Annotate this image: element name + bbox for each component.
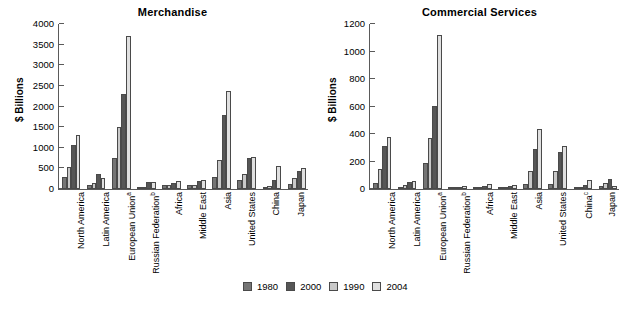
bar [301, 168, 306, 189]
y-tick-label: 2000 [33, 102, 59, 112]
chart-title-commercial-services: Commercial Services [321, 6, 634, 18]
chart-panel-merchandise: Merchandise $ Billions 05001000150020002… [0, 0, 317, 280]
y-tick-label: 200 [349, 157, 370, 167]
bar-groups-merchandise [59, 24, 308, 189]
bar [387, 137, 392, 189]
y-tick-label: 1500 [33, 122, 59, 132]
x-axis-label: Asia [535, 192, 544, 210]
y-tick-label: 0 [49, 184, 59, 194]
y-tick-label: 3000 [33, 61, 59, 71]
x-axis-label: Africa [175, 192, 184, 215]
y-tick-label: 1000 [33, 143, 59, 153]
legend-label-1990: 1990 [343, 281, 364, 292]
y-tick-label: 3500 [33, 40, 59, 50]
legend-swatch-1990 [329, 282, 338, 291]
x-axis-label: China [272, 192, 281, 216]
bar [101, 178, 106, 189]
bar-group [599, 24, 617, 189]
legend-label-1980: 1980 [257, 281, 278, 292]
bar-group [523, 24, 541, 189]
plot-area-merchandise: 05001000150020002500300035004000 North A… [58, 24, 308, 190]
bar [176, 181, 181, 189]
y-tick-label: 1000 [344, 47, 370, 57]
bar-group [498, 24, 516, 189]
legend-item-1990: 1990 [329, 281, 364, 292]
x-axis-label: Russian Federationb [461, 192, 472, 274]
x-axis-label: Japan [608, 192, 617, 217]
bar-group [448, 24, 466, 189]
bar-group [62, 24, 80, 189]
y-axis-label-commercial-services: $ Billions [327, 78, 338, 122]
x-axis-label: European Uniona [437, 192, 448, 261]
bar-group [373, 24, 391, 189]
legend-item-2004: 2004 [372, 281, 407, 292]
x-axis-label: Latin America [102, 192, 111, 247]
y-tick-label: 2500 [33, 81, 59, 91]
y-tick-label: 500 [38, 164, 59, 174]
x-axis-label: Japan [297, 192, 306, 217]
x-axis-label: Middle East [510, 192, 519, 239]
x-axis-labels-commercial-services: North AmericaLatin AmericaEuropean Union… [370, 189, 619, 275]
x-axis-label: Chinac [583, 192, 594, 219]
legend-swatch-1980 [243, 282, 252, 291]
bar-group [112, 24, 130, 189]
bar-group [398, 24, 416, 189]
x-axis-label: Middle East [199, 192, 208, 239]
chart-title-merchandise: Merchandise [14, 6, 331, 18]
y-tick-label: 4000 [33, 19, 59, 29]
bar-groups-commercial-services [370, 24, 619, 189]
bar-group [87, 24, 105, 189]
y-tick-label: 800 [349, 74, 370, 84]
bar-group [423, 24, 441, 189]
y-tick-label: 400 [349, 129, 370, 139]
x-axis-label: Africa [486, 192, 495, 215]
chart-panel-commercial-services: Commercial Services $ Billions 020040060… [317, 0, 634, 280]
bar-group [263, 24, 281, 189]
bar [226, 91, 231, 189]
bar [201, 180, 206, 189]
plot-area-commercial-services: 020040060080010001200 North AmericaLatin… [369, 24, 619, 190]
y-axis-label-merchandise: $ Billions [14, 78, 25, 122]
x-axis-labels-merchandise: North AmericaLatin AmericaEuropean Union… [59, 189, 308, 275]
bar [437, 35, 442, 189]
x-axis-label: Latin America [413, 192, 422, 247]
x-axis-label: United States [559, 192, 568, 246]
legend-swatch-2000 [286, 282, 295, 291]
bar [276, 166, 281, 189]
x-axis-label: United States [248, 192, 257, 246]
bar [537, 129, 542, 190]
legend-item-1980: 1980 [243, 281, 278, 292]
bar-group [187, 24, 205, 189]
bar-group [473, 24, 491, 189]
x-axis-label: Asia [224, 192, 233, 210]
bar [562, 146, 567, 189]
bar-group [288, 24, 306, 189]
bar [412, 181, 417, 189]
y-tick-label: 1200 [344, 19, 370, 29]
bar [76, 135, 81, 189]
chart-legend: 1980 2000 1990 2004 [243, 278, 408, 294]
x-axis-label: North America [77, 192, 86, 249]
bar [587, 180, 592, 189]
bar [151, 182, 156, 189]
y-tick-label: 0 [360, 184, 370, 194]
legend-label-2004: 2004 [386, 281, 407, 292]
bar-group [237, 24, 255, 189]
x-axis-label: North America [388, 192, 397, 249]
bar-group [574, 24, 592, 189]
bar [251, 157, 256, 189]
bar-group [548, 24, 566, 189]
y-tick-label: 600 [349, 102, 370, 112]
bar-group [162, 24, 180, 189]
x-axis-label: Russian Federationb [150, 192, 161, 274]
legend-label-2000: 2000 [300, 281, 321, 292]
legend-item-2000: 2000 [286, 281, 321, 292]
bar-group [212, 24, 230, 189]
x-axis-label: European Uniona [126, 192, 137, 261]
bar [126, 36, 131, 189]
bar-group [137, 24, 155, 189]
legend-swatch-2004 [372, 282, 381, 291]
chart-page: Merchandise $ Billions 05001000150020002… [0, 0, 634, 319]
